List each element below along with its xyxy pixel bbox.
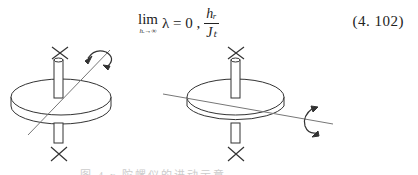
right-gyroscope [163,47,333,161]
gyroscope-figure [0,35,418,170]
figure-caption: 图 4.x 陀螺仪的进动示意 [80,166,226,175]
equation-lhs: λ = 0 , [162,15,200,32]
fraction-bar [204,23,218,24]
fraction-numerator: hᵣ [204,7,218,21]
limit-operator: lim hᵣ→∞ [138,12,158,35]
lim-word: lim [138,12,158,27]
equation-number: (4. 102) [353,13,405,30]
left-gyroscope [11,47,112,161]
lim-subscript: hᵣ→∞ [139,28,156,35]
